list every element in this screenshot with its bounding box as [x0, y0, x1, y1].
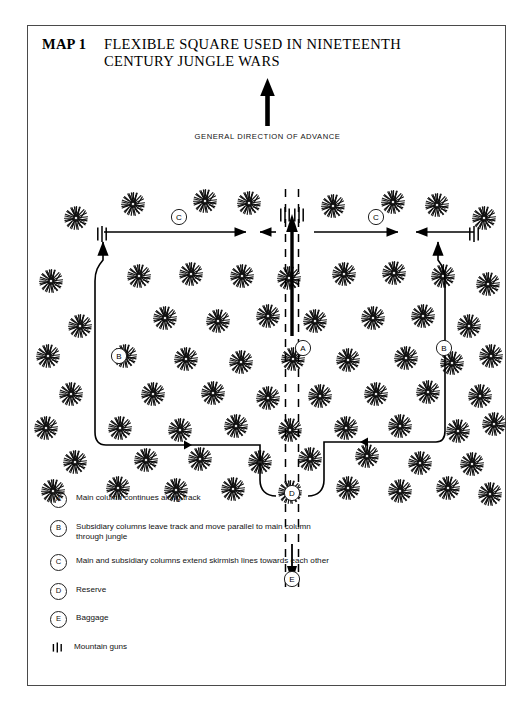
- legend-item-mountain-guns: Mountain guns: [50, 640, 340, 655]
- legend-badge-a: A: [50, 491, 67, 508]
- legend-text-d: Reserve: [76, 583, 106, 596]
- marker-b-right: B: [436, 340, 451, 355]
- marker-a-label: A: [300, 344, 306, 353]
- legend-item-e: E Baggage: [50, 611, 340, 628]
- legend-badge-d: D: [50, 583, 67, 600]
- marker-c-left: C: [171, 209, 186, 224]
- legend-item-d: D Reserve: [50, 583, 340, 600]
- marker-b-left-label: B: [116, 352, 121, 361]
- mountain-guns-icon: [50, 640, 65, 655]
- legend-text-c: Main and subsidiary columns extend skirm…: [76, 554, 329, 567]
- legend-item-b: B Subsidiary columns leave track and mov…: [50, 520, 340, 543]
- legend-item-a: A Main column continues along track: [50, 491, 340, 508]
- legend-badge-c: C: [50, 554, 67, 571]
- legend-badge-b: B: [50, 520, 67, 537]
- legend-text-a: Main column continues along track: [76, 491, 201, 504]
- legend: A Main column continues along track B Su…: [50, 491, 340, 666]
- mountain-guns-symbols: [98, 207, 478, 242]
- marker-b-right-label: B: [441, 344, 446, 353]
- map-root: MAP 1FLEXIBLE SQUARE USED IN NINETEENTH …: [0, 0, 530, 716]
- jungle-trees: [35, 190, 506, 506]
- legend-text-mountain-guns: Mountain guns: [74, 640, 127, 653]
- marker-c-right: C: [368, 209, 383, 224]
- marker-c-right-label: C: [373, 213, 379, 222]
- legend-text-e: Baggage: [76, 611, 108, 624]
- marker-b-left: B: [111, 348, 126, 363]
- marker-a: A: [295, 340, 310, 355]
- legend-item-c: C Main and subsidiary columns extend ski…: [50, 554, 340, 571]
- marker-c-left-label: C: [176, 213, 182, 222]
- legend-badge-e: E: [50, 611, 67, 628]
- legend-text-b: Subsidiary columns leave track and move …: [76, 520, 340, 543]
- advance-arrow-icon: [260, 78, 275, 126]
- map-frame: MAP 1FLEXIBLE SQUARE USED IN NINETEENTH …: [27, 25, 506, 686]
